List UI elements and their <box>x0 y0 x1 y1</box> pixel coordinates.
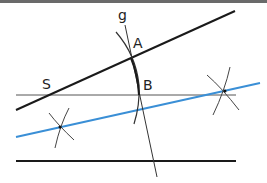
label-A: A <box>133 35 143 51</box>
label-S: S <box>42 76 51 92</box>
label-g: g <box>118 7 127 23</box>
construction-diagram: g A B S <box>0 0 267 183</box>
label-B: B <box>143 77 153 93</box>
cross-right <box>207 67 239 115</box>
